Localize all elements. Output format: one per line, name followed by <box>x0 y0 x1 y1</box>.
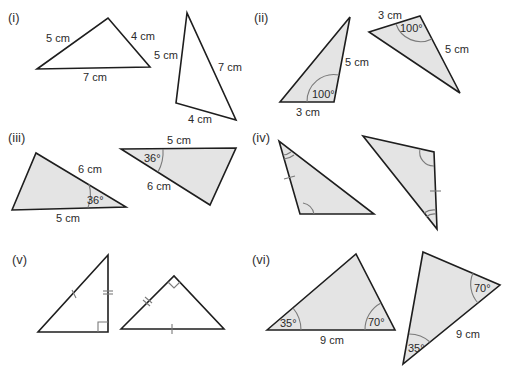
triangle-ii-b: 100° 3 cm 5 cm <box>369 9 469 93</box>
side-label: 5 cm <box>154 49 178 61</box>
triangle-vi-a: 35° 70° 9 cm <box>267 254 395 346</box>
part-label-iv: (iv) <box>252 130 270 145</box>
triangle-iii-b: 36° 5 cm 6 cm <box>121 134 236 205</box>
part-label-i: (i) <box>8 10 20 25</box>
triangle-v-b <box>121 276 224 334</box>
triangle-iv-a <box>279 141 374 214</box>
side-label: 6 cm <box>78 163 102 175</box>
part-label-v: (v) <box>12 252 27 267</box>
triangle-iii-a: 36° 6 cm 5 cm <box>12 153 126 224</box>
triangle-vi-b: 70° 35° 9 cm <box>403 252 500 364</box>
side-label: 3 cm <box>378 9 402 21</box>
side-label: 6 cm <box>147 180 171 192</box>
side-label: 9 cm <box>456 328 480 340</box>
angle-label: 100° <box>312 88 335 100</box>
angle-label: 36° <box>144 152 161 164</box>
angle-label: 70° <box>368 316 385 328</box>
angle-label: 35° <box>280 317 297 329</box>
angle-label: 70° <box>474 282 491 294</box>
side-label: 7 cm <box>83 71 107 83</box>
angle-label: 36° <box>87 194 104 206</box>
side-label: 9 cm <box>320 334 344 346</box>
triangle-ii-a: 100° 5 cm 3 cm <box>280 17 369 118</box>
angle-label: 35° <box>408 342 425 354</box>
triangle-i-b: 5 cm 7 cm 4 cm <box>154 13 242 125</box>
side-label: 5 cm <box>445 43 469 55</box>
side-label: 5 cm <box>345 56 369 68</box>
part-label-ii: (ii) <box>254 10 268 25</box>
triangle-iv-b <box>363 136 441 229</box>
side-label: 5 cm <box>167 134 191 146</box>
angle-label: 100° <box>400 22 423 34</box>
triangle-v-a <box>38 255 113 332</box>
side-label: 3 cm <box>296 106 320 118</box>
side-label: 4 cm <box>188 113 212 125</box>
part-label-iii: (iii) <box>8 130 25 145</box>
side-label: 4 cm <box>131 30 155 42</box>
side-label: 5 cm <box>56 212 80 224</box>
triangle-i-a: 5 cm 4 cm 7 cm <box>37 18 155 83</box>
part-label-vi: (vi) <box>252 252 270 267</box>
side-label: 7 cm <box>218 61 242 73</box>
side-label: 5 cm <box>46 32 70 44</box>
congruent-triangles-diagram: (i) 5 cm 4 cm 7 cm 5 cm 7 cm 4 cm (ii) 1… <box>0 0 506 366</box>
